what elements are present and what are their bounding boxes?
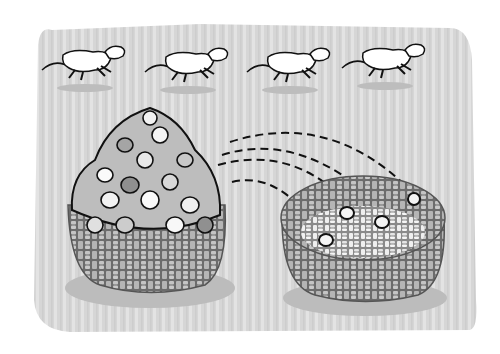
empty-basket (281, 176, 447, 316)
illustration (0, 0, 500, 354)
